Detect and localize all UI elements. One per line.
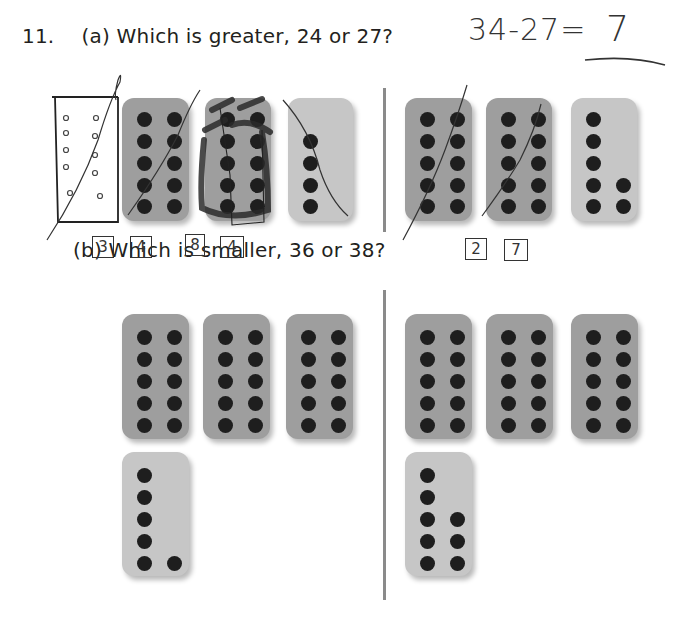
ten-card [405, 314, 472, 439]
handwritten-box: 8 [185, 234, 205, 256]
ten-card [286, 314, 353, 439]
handwritten-equation: 34-27= [468, 12, 586, 47]
problem-number: 11. [22, 24, 54, 48]
divider-part-a [383, 88, 386, 232]
handwritten-box: 2 [465, 238, 487, 260]
question-a: 11. (a) Which is greater, 24 or 27? [22, 24, 393, 48]
ten-card [203, 314, 270, 439]
handwritten-box: 4 [130, 236, 152, 258]
part-a-question: Which is greater, 24 or 27? [117, 24, 394, 48]
partial-card [122, 452, 189, 576]
partial-card [405, 452, 472, 576]
handwriting-strokes [0, 0, 683, 621]
partial-card [571, 98, 637, 221]
ten-card [571, 314, 638, 439]
ten-card [122, 98, 189, 221]
ten-card [486, 314, 553, 439]
ten-card [405, 98, 472, 221]
handwritten-box: 7 [504, 239, 528, 261]
partial-card [288, 98, 353, 221]
part-a-label: (a) [82, 24, 110, 48]
ten-card [205, 98, 271, 221]
handwritten-box: 3 [92, 236, 114, 258]
handwritten-answer: 7 [606, 8, 629, 49]
divider-part-b [383, 290, 386, 600]
ten-card [486, 98, 552, 221]
ten-card [122, 314, 189, 439]
handwritten-box: 4 [220, 236, 244, 258]
